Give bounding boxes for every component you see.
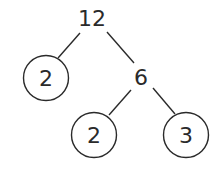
edge-12-2 [58, 33, 80, 58]
edge-12-6 [107, 32, 134, 63]
edge-6-2 [109, 90, 131, 115]
node-bottom-left-label: 2 [87, 123, 101, 148]
node-root-label: 12 [78, 6, 106, 31]
node-mid-label: 6 [134, 65, 148, 90]
factor-tree: 12 2 6 2 3 [0, 0, 215, 185]
node-bottom-right-label: 3 [179, 123, 193, 148]
edge-6-3 [153, 88, 175, 114]
node-left-label: 2 [39, 66, 53, 91]
